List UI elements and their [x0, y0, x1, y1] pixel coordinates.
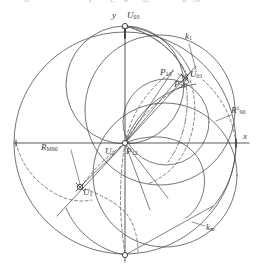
radial-line-lower-left	[80, 143, 125, 187]
label-R1-90: R190	[231, 105, 246, 115]
label-k1: k1	[185, 32, 192, 41]
label-U2: U2	[105, 147, 115, 156]
dashed-arc-bottom-lobe	[120, 143, 125, 253]
leader-R1-90	[216, 115, 231, 121]
radial-line-to-U1	[57, 143, 125, 216]
node-P12-origin	[122, 140, 127, 145]
chord-bottom-right	[125, 206, 213, 255]
arc-lobe-right-top	[125, 84, 196, 143]
node-U03	[122, 23, 127, 28]
geometric-figure: U 1 1, w 0, u 90	[0, 0, 264, 272]
arc-bottom-left-sweep	[66, 208, 125, 255]
label-P13: P13	[160, 68, 172, 77]
label-x-axis: x	[243, 132, 247, 141]
dashed-arc-mid-right	[148, 80, 195, 184]
label-P12: P12	[126, 147, 138, 156]
dashdot-arc-k1	[125, 26, 188, 76]
diagram-canvas	[0, 0, 264, 272]
dashdot-arc-lower	[168, 84, 187, 162]
circle-km	[93, 103, 237, 247]
circle-k1	[85, 35, 235, 185]
leader-km	[192, 222, 205, 226]
label-U03: U03	[127, 11, 140, 20]
label-y-axis: y	[112, 11, 116, 20]
node-bottom	[122, 252, 127, 257]
leader-RM90	[71, 150, 80, 184]
label-P23: P23	[174, 80, 186, 89]
label-km: km	[206, 223, 215, 232]
label-U01: U01	[190, 70, 203, 79]
label-U1: U1	[83, 188, 93, 197]
label-RM90: RM90	[41, 143, 58, 152]
